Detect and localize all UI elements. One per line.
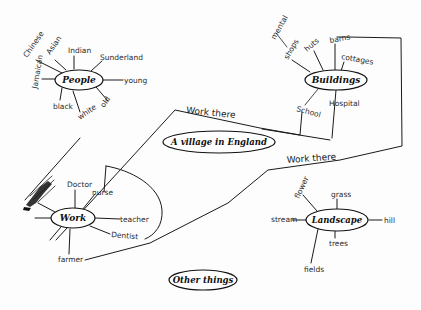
branch-label-fields: fields [304, 265, 324, 274]
branch-line-flower [303, 195, 317, 211]
branch-line-school [305, 89, 318, 105]
branch-label-stream: stream [271, 215, 297, 224]
node-other-things: Other things [169, 270, 237, 290]
node-work: Work Doctor nurse teacher Dentist farmer [23, 166, 162, 264]
branch-label-black: black [53, 102, 74, 111]
branch-line-fields [311, 229, 318, 263]
branch-label-hill: hill [384, 216, 395, 225]
branch-line-scribble [38, 203, 55, 212]
branch-label-barns: barns [329, 32, 351, 45]
branch-label-jamaican: Jamaican [30, 54, 45, 91]
branch-label-teacher: teacher [120, 215, 150, 224]
node-landscape: Landscape flower grass hill trees fields… [271, 174, 395, 274]
branch-label-sunderland: Sunderland [100, 53, 143, 62]
branch-line-teacher [95, 218, 120, 219]
branch-label-asian: Asian [44, 34, 63, 56]
node-label-landscape: Landscape [311, 215, 363, 225]
node-label-people: People [61, 75, 96, 85]
branch-label-old: old [98, 94, 112, 109]
branch-label-flower: flower [293, 174, 311, 200]
branch-label-farmer: farmer [58, 255, 84, 264]
branch-line-dentist [90, 226, 110, 234]
branch-line-unlabeled-1 [50, 227, 61, 240]
branch-label-trees: trees [329, 239, 348, 248]
branch-label-cottages: cottages [341, 52, 375, 67]
node-buildings: Buildings mental shops huts barns cottag… [269, 14, 374, 138]
branch-label-school: School [295, 104, 321, 119]
branch-line-huts [314, 51, 323, 70]
node-people: People Chinese Asian Indian Sunderland y… [21, 29, 147, 122]
branch-label-doctor: Doctor [67, 180, 93, 189]
branch-label-white: white [76, 102, 98, 121]
branch-label-nurse: nurse [92, 188, 113, 197]
connector-label-work-there-lower: Work there [286, 152, 336, 165]
scribbled-label-icon [23, 176, 55, 211]
branch-line-sunderland [91, 61, 102, 71]
branch-line-shops [292, 60, 310, 72]
branch-label-chinese: Chinese [21, 29, 46, 59]
branch-label-dentist: Dentist [111, 230, 139, 241]
branch-label-indian: Indian [68, 46, 91, 55]
node-label-other-things: Other things [173, 275, 234, 285]
branch-line-white [73, 91, 80, 112]
branch-label-huts: huts [303, 36, 321, 53]
node-label-buildings: Buildings [311, 75, 361, 85]
branch-line-hospital [332, 90, 336, 138]
branch-line-asian [55, 60, 66, 70]
branch-label-hospital: Hospital [329, 99, 360, 108]
branch-line-farmer [69, 229, 70, 254]
branch-label-grass: grass [331, 190, 351, 199]
branch-line-black [60, 88, 62, 100]
loop-nurse-dentist [106, 166, 162, 239]
node-center: A village in England [163, 131, 275, 153]
connector-line-people-to-work [25, 138, 80, 200]
branch-label-young: young [124, 76, 148, 85]
mind-map-canvas: Work there Work there People Chinese Asi… [0, 0, 421, 310]
branch-label-shops: shops [282, 37, 301, 61]
node-label-work: Work [60, 213, 86, 223]
node-label-center: A village in England [170, 137, 267, 147]
